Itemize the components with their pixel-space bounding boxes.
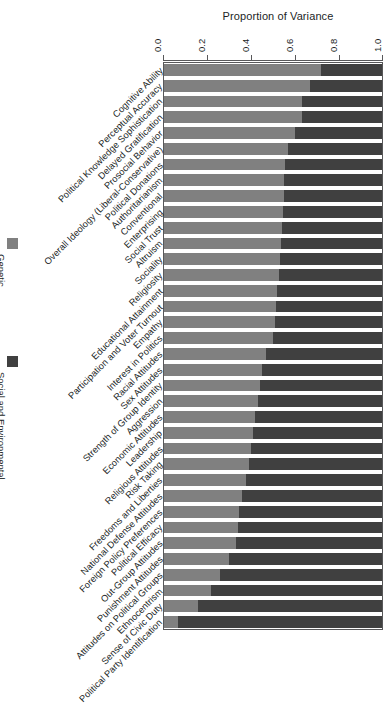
plot-area bbox=[163, 62, 383, 630]
bar-segment-social-environmental bbox=[238, 522, 383, 534]
bar-segment-social-environmental bbox=[258, 395, 383, 407]
legend-label: Social and Environmental bbox=[0, 372, 7, 480]
bar-row bbox=[163, 553, 383, 565]
bar-row bbox=[163, 301, 383, 313]
bar-segment-genetic bbox=[163, 332, 273, 344]
bar-segment-genetic bbox=[163, 458, 249, 470]
x-axis-tick-label: 0.0 bbox=[152, 39, 163, 52]
bar-segment-genetic bbox=[163, 80, 310, 92]
bar-segment-genetic bbox=[163, 64, 321, 76]
bar-row bbox=[163, 616, 383, 628]
bar-segment-social-environmental bbox=[284, 190, 383, 202]
bar-row bbox=[163, 174, 383, 186]
bar-row bbox=[163, 285, 383, 297]
bar-segment-social-environmental bbox=[251, 443, 383, 455]
bar-segment-social-environmental bbox=[310, 80, 383, 92]
bar-segment-genetic bbox=[163, 96, 302, 108]
bar-row bbox=[163, 206, 383, 218]
bar-segment-social-environmental bbox=[239, 506, 383, 518]
bar-segment-social-environmental bbox=[276, 301, 383, 313]
bar-segment-genetic bbox=[163, 427, 253, 439]
bar-segment-social-environmental bbox=[266, 348, 383, 360]
x-axis-tick bbox=[207, 55, 208, 60]
bar-segment-genetic bbox=[163, 174, 284, 186]
bar-row bbox=[163, 111, 383, 123]
bar-row bbox=[163, 411, 383, 423]
bar-segment-social-environmental bbox=[285, 159, 383, 171]
bar-segment-social-environmental bbox=[273, 332, 383, 344]
x-axis-tick bbox=[339, 55, 340, 60]
bar-segment-social-environmental bbox=[302, 111, 383, 123]
legend-swatch bbox=[7, 356, 18, 367]
x-axis-tick bbox=[163, 55, 164, 60]
bar-segment-genetic bbox=[163, 474, 246, 486]
bar-segment-social-environmental bbox=[275, 316, 383, 328]
bar-segment-social-environmental bbox=[249, 458, 383, 470]
bar-row bbox=[163, 380, 383, 392]
x-axis-tick-label: 0.6 bbox=[284, 39, 295, 52]
x-axis-tick-label: 1.0 bbox=[372, 39, 383, 52]
bar-segment-social-environmental bbox=[220, 569, 383, 581]
bar-row bbox=[163, 474, 383, 486]
x-axis-line bbox=[163, 60, 383, 61]
bar-segment-social-environmental bbox=[280, 253, 383, 265]
bar-segment-genetic bbox=[163, 537, 236, 549]
bar-row bbox=[163, 127, 383, 139]
bar-row bbox=[163, 600, 383, 612]
bar-segment-genetic bbox=[163, 238, 281, 250]
bar-row bbox=[163, 316, 383, 328]
bar-segment-genetic bbox=[163, 285, 277, 297]
bar-segment-social-environmental bbox=[288, 143, 383, 155]
bar-segment-genetic bbox=[163, 616, 178, 628]
bar-row bbox=[163, 443, 383, 455]
bar-segment-social-environmental bbox=[295, 127, 383, 139]
bar-segment-genetic bbox=[163, 159, 285, 171]
bar-row bbox=[163, 159, 383, 171]
bar-segment-social-environmental bbox=[302, 96, 383, 108]
bar-segment-social-environmental bbox=[260, 380, 383, 392]
bar-row bbox=[163, 96, 383, 108]
bar-segment-genetic bbox=[163, 553, 229, 565]
bar-row bbox=[163, 490, 383, 502]
bar-segment-genetic bbox=[163, 490, 242, 502]
bar-row bbox=[163, 569, 383, 581]
bar-row bbox=[163, 348, 383, 360]
bar-segment-social-environmental bbox=[236, 537, 383, 549]
bar-row bbox=[163, 80, 383, 92]
bar-segment-social-environmental bbox=[277, 285, 383, 297]
bar-segment-social-environmental bbox=[284, 174, 383, 186]
bar-segment-genetic bbox=[163, 585, 211, 597]
bar-row bbox=[163, 427, 383, 439]
bar-segment-genetic bbox=[163, 364, 262, 376]
bar-segment-genetic bbox=[163, 111, 302, 123]
bar-segment-social-environmental bbox=[279, 269, 384, 281]
bar-segment-genetic bbox=[163, 506, 239, 518]
bar-row bbox=[163, 537, 383, 549]
bar-segment-genetic bbox=[163, 522, 238, 534]
bar-segment-social-environmental bbox=[242, 490, 383, 502]
bar-segment-genetic bbox=[163, 443, 251, 455]
bar-row bbox=[163, 269, 383, 281]
bar-row bbox=[163, 332, 383, 344]
bar-segment-social-environmental bbox=[282, 222, 383, 234]
bar-segment-social-environmental bbox=[255, 411, 383, 423]
bar-segment-genetic bbox=[163, 395, 258, 407]
bar-segment-social-environmental bbox=[283, 206, 383, 218]
bar-segment-genetic bbox=[163, 600, 198, 612]
bar-segment-genetic bbox=[163, 143, 288, 155]
bar-row bbox=[163, 222, 383, 234]
x-axis-tick-label: 0.4 bbox=[240, 39, 251, 52]
x-axis-tick-label: 0.2 bbox=[196, 39, 207, 52]
bar-row bbox=[163, 143, 383, 155]
x-axis-tick bbox=[295, 55, 296, 60]
bar-segment-social-environmental bbox=[246, 474, 384, 486]
x-axis-tick bbox=[251, 55, 252, 60]
bar-segment-genetic bbox=[163, 380, 260, 392]
bar-row bbox=[163, 364, 383, 376]
bar-segment-social-environmental bbox=[281, 238, 383, 250]
bar-row bbox=[163, 458, 383, 470]
bar-segment-social-environmental bbox=[178, 616, 383, 628]
bar-segment-genetic bbox=[163, 269, 279, 281]
bar-segment-genetic bbox=[163, 316, 275, 328]
